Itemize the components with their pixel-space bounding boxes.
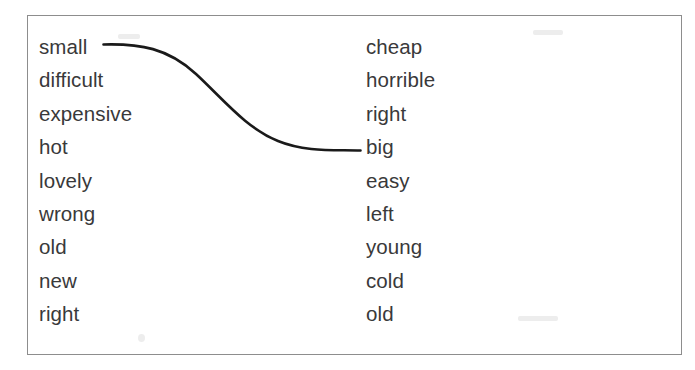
list-item[interactable]: difficult — [39, 63, 339, 96]
list-item[interactable]: easy — [366, 164, 666, 197]
list-item[interactable]: left — [366, 197, 666, 230]
list-item[interactable]: right — [366, 97, 666, 130]
exercise-frame: small difficult expensive hot lovely wro… — [27, 15, 682, 355]
list-item[interactable]: right — [39, 297, 339, 330]
list-item[interactable]: old — [366, 297, 666, 330]
list-item[interactable]: expensive — [39, 97, 339, 130]
list-item[interactable]: cheap — [366, 30, 666, 63]
list-item[interactable]: big — [366, 130, 666, 163]
list-item[interactable]: horrible — [366, 63, 666, 96]
word-columns: small difficult expensive hot lovely wro… — [28, 16, 681, 354]
list-item[interactable]: new — [39, 264, 339, 297]
adjectives-column-right: cheap horrible right big easy left young… — [366, 30, 666, 331]
list-item[interactable]: hot — [39, 130, 339, 163]
list-item[interactable]: old — [39, 230, 339, 263]
list-item[interactable]: wrong — [39, 197, 339, 230]
list-item[interactable]: cold — [366, 264, 666, 297]
adjectives-column-left: small difficult expensive hot lovely wro… — [39, 30, 339, 331]
list-item[interactable]: lovely — [39, 164, 339, 197]
list-item[interactable]: small — [39, 30, 339, 63]
list-item[interactable]: young — [366, 230, 666, 263]
